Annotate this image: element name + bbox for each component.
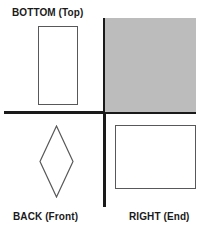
top-right-shaded-square [105, 18, 196, 112]
projection-view-diagram: BOTTOM (Top) BACK (Front) RIGHT (End) [0, 0, 203, 230]
label-bottom-top: BOTTOM (Top) [12, 8, 83, 18]
top-left-rectangle-shape [38, 26, 78, 105]
label-back-front: BACK (Front) [13, 212, 78, 222]
bottom-right-rectangle-shape [115, 125, 196, 189]
diamond-icon [39, 125, 74, 198]
bottom-left-diamond-shape [39, 125, 74, 198]
label-right-end: RIGHT (End) [129, 212, 190, 222]
